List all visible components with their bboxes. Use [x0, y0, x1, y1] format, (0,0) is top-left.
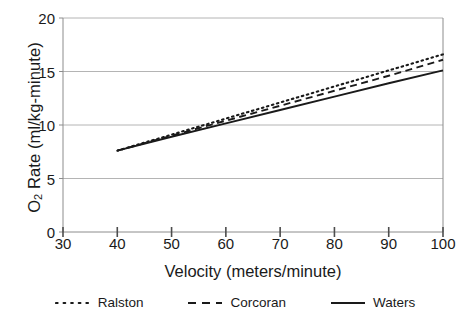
- x-tick-label: 80: [314, 236, 354, 251]
- legend-label: Corcoran: [230, 296, 286, 310]
- legend-item-waters: Waters: [330, 296, 415, 310]
- x-tick-label: 50: [152, 236, 192, 251]
- chart-figure: O2 Rate (ml/kg-minute) 05101520 30405060…: [0, 0, 470, 326]
- gridlines: [63, 18, 443, 179]
- x-axis-title: Velocity (meters/minute): [63, 262, 443, 281]
- x-tick-label: 30: [43, 236, 83, 251]
- x-tick-label: 60: [206, 236, 246, 251]
- legend-label: Waters: [373, 296, 415, 310]
- legend-swatch-solid: [330, 298, 366, 308]
- legend-label: Ralston: [98, 296, 144, 310]
- legend-swatch-dashed: [187, 298, 223, 308]
- legend-item-corcoran: Corcoran: [187, 296, 286, 310]
- series-line-corcoran: [117, 60, 443, 151]
- x-tick-label: 40: [97, 236, 137, 251]
- legend-item-ralston: Ralston: [55, 296, 144, 310]
- series-line-waters: [117, 70, 443, 150]
- x-tick-label: 70: [260, 236, 300, 251]
- x-tick-label: 100: [423, 236, 463, 251]
- chart-legend: RalstonCorcoranWaters: [0, 296, 470, 310]
- data-series-layer: [117, 54, 443, 150]
- legend-swatch-dotted: [55, 298, 91, 308]
- x-tick-label: 90: [369, 236, 409, 251]
